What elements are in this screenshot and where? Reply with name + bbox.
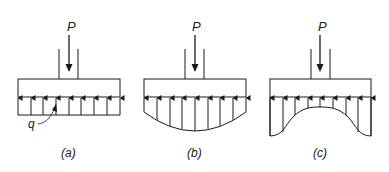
pressure-diagram-saddle: [270, 97, 371, 136]
load-arrow-icon: [192, 35, 199, 72]
load-arrow-icon: [66, 35, 73, 72]
pressure-diagram-uniform: [18, 98, 120, 115]
caption-a: (a): [61, 146, 76, 160]
panel-b: P (b): [144, 19, 246, 160]
leader-line: [38, 108, 55, 124]
load-label-p: P: [318, 19, 327, 34]
panel-a: P q (a): [18, 19, 120, 160]
footing: [18, 79, 120, 97]
caption-c: (c): [313, 146, 327, 160]
load-label-p: P: [67, 19, 76, 34]
pressure-diagram-parabolic: [144, 98, 246, 131]
footing: [270, 79, 371, 97]
caption-b: (b): [187, 146, 202, 160]
load-arrow-icon: [317, 35, 324, 72]
diagram-canvas: P q (a): [0, 0, 389, 172]
panel-c: P (c): [270, 19, 371, 160]
pressure-label-q: q: [28, 117, 35, 131]
load-label-p: P: [192, 19, 201, 34]
footing: [144, 79, 246, 97]
